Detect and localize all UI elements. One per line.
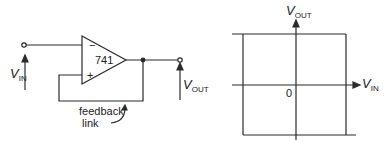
vin-label: VIN bbox=[10, 66, 27, 83]
transfer-characteristic-graph bbox=[232, 20, 360, 140]
opamp-plus-label: + bbox=[87, 69, 93, 81]
feedback-label-line2: link bbox=[82, 117, 99, 129]
y-axis-label: VOUT bbox=[286, 3, 312, 20]
input-terminal bbox=[22, 43, 26, 47]
y-axis-arrow-icon bbox=[293, 20, 299, 27]
vin-arrow-icon bbox=[22, 55, 28, 62]
opamp-minus-label: − bbox=[89, 39, 95, 51]
x-axis-arrow-icon bbox=[353, 82, 360, 88]
vout-arrow-icon bbox=[177, 63, 183, 70]
diagram-svg: − + 741 VIN VOUT feedback link VOUT VIN … bbox=[0, 0, 389, 142]
x-axis-label: VIN bbox=[362, 76, 379, 93]
opamp-model-label: 741 bbox=[95, 54, 113, 66]
vout-label: VOUT bbox=[183, 77, 209, 94]
origin-label: 0 bbox=[286, 87, 292, 99]
diagram-canvas: − + 741 VIN VOUT feedback link VOUT VIN … bbox=[0, 0, 389, 142]
feedback-label-line1: feedback bbox=[79, 105, 124, 117]
